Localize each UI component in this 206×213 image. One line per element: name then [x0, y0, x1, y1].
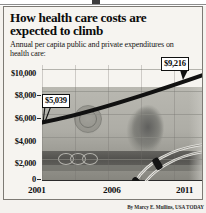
page-title: How health care costs are expected to cl… [10, 11, 190, 38]
top-marker [92, 0, 100, 4]
y-axis-label-0: 0 [3, 175, 36, 184]
infographic-health-care-costs: How health care costs are expected to cl… [0, 0, 206, 213]
x-axis-label-2011: 2011 [176, 185, 193, 195]
x-axis-label-2006: 2006 [103, 185, 121, 195]
source-note: Source: Centers for Medicare & Medicaid … [11, 197, 145, 200]
y-axis-label-2000: $2,000 [3, 159, 36, 168]
chart-panel: How health care costs are expected to cl… [3, 6, 203, 200]
y-axis-label-4000: $4,000 [3, 137, 36, 146]
y-axis-label-10000: $10,000 [3, 69, 36, 78]
chart-subtitle: Annual per capita public and private exp… [10, 40, 180, 58]
y-axis-label-6000: $6,000 [3, 114, 36, 123]
y-tick-6000 [37, 118, 41, 119]
credit-line: By Marcy E. Mullins, USA TODAY [127, 204, 204, 210]
trend-line [42, 65, 203, 181]
y-tick-0 [37, 179, 41, 180]
callout-end-value: $9,216 [161, 57, 189, 71]
y-axis-label-8000: $8,000 [3, 91, 36, 100]
callout-start-value: $5,039 [42, 94, 70, 108]
y-tick-8000 [37, 95, 41, 96]
x-axis-label-2001: 2001 [28, 185, 46, 195]
plot-area [42, 65, 203, 181]
